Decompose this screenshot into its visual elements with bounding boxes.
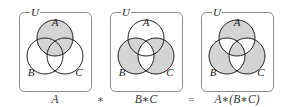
set-label-b: B	[210, 66, 217, 78]
set-label-a: A	[233, 16, 241, 28]
panel-caption: A∗(B∗C)	[213, 93, 259, 106]
panel-b-sym-c: UABC	[110, 6, 183, 92]
set-label-a: A	[142, 16, 150, 28]
universe-label: U	[122, 6, 131, 18]
venn-diagram-figure: UABCUABCUABC AB∗CA∗(B∗C)∗=	[0, 0, 284, 107]
set-label-a: A	[51, 16, 59, 28]
panel-a-sym-b-sym-c: UABC	[201, 6, 274, 92]
set-label-b: B	[28, 66, 35, 78]
operator-symmetric-difference: ∗	[97, 93, 104, 105]
universe-label: U	[31, 6, 40, 18]
panel-caption: B∗C	[135, 93, 158, 105]
set-label-c: C	[257, 66, 265, 78]
set-label-b: B	[119, 66, 126, 78]
universe-label: U	[213, 6, 222, 18]
panel-a: UABC	[19, 6, 92, 92]
panel-caption: A	[50, 93, 59, 105]
set-label-c: C	[166, 66, 174, 78]
operator-equals: =	[188, 93, 194, 105]
set-label-c: C	[75, 66, 83, 78]
